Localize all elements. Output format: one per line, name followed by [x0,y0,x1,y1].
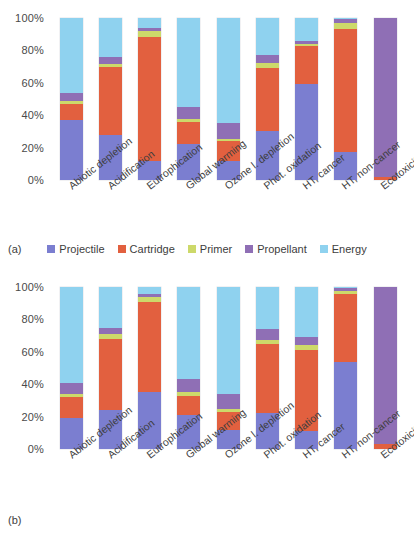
bar-segment-energy [138,287,161,294]
bar-segment-propellant [256,55,279,63]
x-tick-label: HT, cancer [300,182,307,191]
x-tick-label: Ecotoxicity [378,182,385,191]
legend-item: Projectile [47,243,104,255]
bar-segment-energy [99,287,122,328]
x-tick-label: Eutrophication [144,182,151,191]
legend-swatch-icon [188,245,196,253]
bar-segment-energy [99,18,122,57]
x-tick-label: Global warming [183,451,190,460]
bar-segment-propellant [177,107,200,119]
bar-segment-energy [177,18,200,107]
legend-label: Projectile [59,243,104,255]
y-tick-label: 60% [21,77,44,89]
y-tick-label: 60% [21,346,44,358]
x-tick-label: HT, cancer [300,451,307,460]
chart-legend: ProjectileCartridgePrimerPropellantEnerg… [0,243,414,255]
bar-segment-energy [256,287,279,329]
y-tick-label: 100% [15,12,44,24]
bar-segment-cartridge [138,302,161,393]
y-axis-panel-b: 0%20%40%60%80%100% [0,287,48,449]
bar-segment-propellant [217,123,240,138]
legend-item: Primer [188,243,232,255]
bar-segment-propellant [217,394,240,409]
legend-swatch-icon [320,245,328,253]
x-tick-label: Abiotic depletion [66,182,73,191]
legend-swatch-icon [245,245,253,253]
legend-swatch-icon [118,245,126,253]
bar-segment-energy [217,18,240,123]
x-axis-labels-panel-a: Abiotic depletionAcidificationEutrophica… [52,182,404,252]
x-tick-label: Phot. oxidation [261,182,268,191]
bar-segment-cartridge [138,37,161,160]
x-tick-label: Ozone l. depletion [222,182,229,191]
bar-segment-cartridge [60,104,83,120]
bar-segment-propellant [177,379,200,392]
bar-segment-cartridge [256,68,279,131]
bar-segment-energy [177,287,200,379]
x-tick-label: HT, non-cancer [339,451,346,460]
x-tick-label: Abiotic depletion [66,451,73,460]
bar-segment-cartridge [99,67,122,135]
chart-panel-b: 0%20%40%60%80%100% Abiotic depletionAcid… [0,269,414,538]
y-tick-label: 20% [21,142,44,154]
legend-item: Cartridge [118,243,175,255]
legend-item: Propellant [245,243,307,255]
x-tick-label: Global warming [183,182,190,191]
bar-segment-propellant [256,329,279,340]
bar-segment-energy [295,287,318,337]
y-tick-label: 80% [21,313,44,325]
x-tick-label: Phot. oxidation [261,451,268,460]
bar-segment-cartridge [99,339,122,410]
panel-label-b: (b) [8,514,21,526]
bar-segment-cartridge [334,29,357,152]
bar-segment-cartridge [256,344,279,414]
bar-segment-energy [217,287,240,394]
bar-segment-cartridge [334,294,357,362]
x-axis-labels-panel-b: Abiotic depletionAcidificationEutrophica… [52,451,404,521]
y-tick-label: 0% [28,443,44,455]
bar-segment-energy [295,18,318,41]
legend-label: Energy [332,243,367,255]
legend-label: Propellant [257,243,307,255]
x-tick-label: Ecotoxicity [378,451,385,460]
y-tick-label: 40% [21,378,44,390]
x-tick-label: HT, non-cancer [339,182,346,191]
x-tick-label: Acidification [105,451,112,460]
y-tick-label: 20% [21,411,44,423]
bar-column [52,287,90,449]
bar-segment-energy [256,18,279,55]
legend-label: Cartridge [130,243,175,255]
y-tick-label: 0% [28,174,44,186]
x-tick-label: Eutrophication [144,451,151,460]
bar-segment-propellant [99,57,122,64]
bar-segment-propellant [60,383,83,394]
y-tick-label: 80% [21,44,44,56]
bar-segment-energy [60,18,83,93]
bar-segment-cartridge [295,46,318,85]
bar-segment-cartridge [60,397,83,418]
legend-label: Primer [200,243,232,255]
y-tick-label: 100% [15,281,44,293]
bar-segment-energy [60,287,83,383]
y-tick-label: 40% [21,109,44,121]
stacked-bar [60,287,83,449]
x-tick-label: Acidification [105,182,112,191]
x-tick-label: Ozone l. depletion [222,451,229,460]
chart-panel-a: 0%20%40%60%80%100% Abiotic depletionAcid… [0,0,414,269]
y-axis-panel-a: 0%20%40%60%80%100% [0,18,48,180]
bar-column [52,18,90,180]
legend-swatch-icon [47,245,55,253]
bar-segment-energy [138,18,161,28]
bar-segment-propellant [295,337,318,345]
bar-segment-propellant [60,93,83,102]
panel-label-a: (a) [8,243,21,255]
stacked-bar [60,18,83,180]
legend-item: Energy [320,243,367,255]
